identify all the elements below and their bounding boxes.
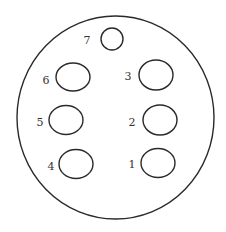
pin-label: 2 [129,116,136,129]
pin-hole [101,28,123,50]
pin-3: 3 [125,60,174,90]
pin-5: 5 [37,106,84,135]
pin-hole [141,149,175,178]
pin-6: 6 [43,63,91,91]
pin-label: 6 [43,74,50,87]
connector-pinout-diagram: 1234567 [0,0,226,232]
connector-outline [17,16,214,219]
pin-hole [139,60,173,90]
pin-label: 5 [37,116,44,129]
pin-4: 4 [48,150,94,179]
pin-hole [143,105,177,135]
pin-1: 1 [129,149,176,178]
pin-2: 2 [129,105,178,135]
pin-hole [59,150,93,179]
pin-hole [56,63,90,91]
pin-label: 7 [84,34,91,47]
pin-label: 1 [129,158,136,171]
pin-group: 1234567 [37,28,178,179]
pin-hole [49,106,83,135]
pin-label: 4 [48,160,55,173]
pin-label: 3 [125,70,132,83]
pin-7: 7 [84,28,124,50]
